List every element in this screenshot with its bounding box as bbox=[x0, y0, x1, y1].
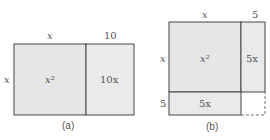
b-x-squared-label: x² bbox=[200, 54, 210, 64]
a-side-x-label: x bbox=[4, 75, 10, 85]
diagram-shapes bbox=[0, 0, 270, 140]
a-top-10-label: 10 bbox=[104, 31, 117, 41]
a-caption: (a) bbox=[62, 121, 74, 131]
b-bottom-5x-label: 5x bbox=[199, 99, 211, 109]
b-right-5x-label: 5x bbox=[246, 54, 258, 64]
b-side-5-label: 5 bbox=[160, 99, 166, 109]
b-top-x-label: x bbox=[202, 10, 208, 20]
b-side-x-label: x bbox=[160, 54, 166, 64]
b-caption: (b) bbox=[206, 122, 218, 132]
b-top-5-label: 5 bbox=[252, 10, 258, 20]
b-missing-corner bbox=[241, 92, 265, 115]
a-x-squared-label: x² bbox=[45, 75, 55, 85]
a-top-x-label: x bbox=[47, 31, 53, 41]
a-10x-label: 10x bbox=[100, 75, 118, 85]
